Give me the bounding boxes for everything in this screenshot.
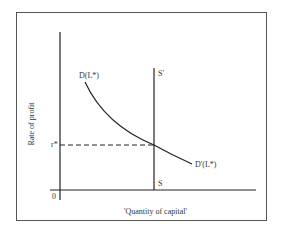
origin-label: 0 [52, 193, 56, 201]
supply-top-label: S' [158, 70, 164, 78]
demand-top-label: D(L*) [79, 72, 99, 80]
demand-curve [85, 82, 192, 164]
y-axis-label: Rate of profit [28, 102, 36, 145]
demand-bottom-label: D'(L*) [195, 161, 216, 169]
supply-bottom-label: S [158, 180, 162, 188]
x-axis-label: 'Quantity of capital' [124, 208, 187, 216]
equilibrium-rate-label: r* [51, 141, 58, 149]
diagram-canvas [0, 0, 285, 234]
